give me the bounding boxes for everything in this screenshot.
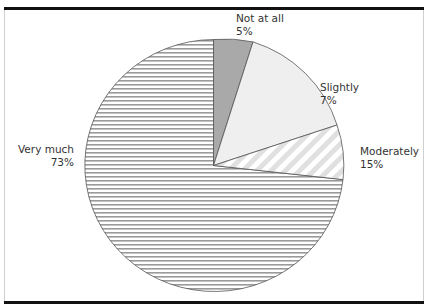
label-not-at-all-pct: 5% bbox=[236, 25, 284, 38]
label-moderately-pct: 15% bbox=[360, 158, 419, 171]
label-slightly-name: Slightly bbox=[320, 81, 359, 94]
label-moderately: Moderately 15% bbox=[360, 145, 419, 171]
label-slightly: Slightly 7% bbox=[320, 81, 359, 107]
label-not-at-all-name: Not at all bbox=[236, 12, 284, 25]
label-very-much: Very much 73% bbox=[16, 143, 74, 169]
label-very-much-pct: 73% bbox=[16, 156, 74, 169]
label-moderately-name: Moderately bbox=[360, 145, 419, 158]
label-very-much-name: Very much bbox=[16, 143, 74, 156]
label-slightly-pct: 7% bbox=[320, 94, 359, 107]
label-not-at-all: Not at all 5% bbox=[236, 12, 284, 38]
